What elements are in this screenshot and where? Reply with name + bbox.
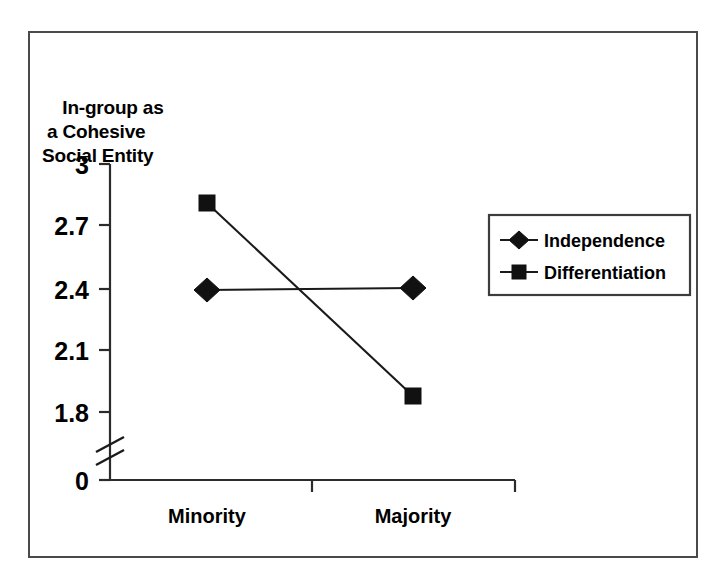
- legend-label-independence: Independence: [544, 231, 665, 251]
- x-category-label-majority: Majority: [375, 505, 453, 527]
- figure-frame: In-group as a Cohesive Social Entity 3 2…: [28, 31, 698, 558]
- series-line-differentiation: [207, 203, 413, 396]
- y-tick-label-3: 3: [75, 151, 89, 179]
- y-tick-label-2-7: 2.7: [54, 212, 89, 240]
- data-point-differentiation-minority[interactable]: [199, 195, 215, 211]
- data-point-differentiation-majority[interactable]: [405, 388, 421, 404]
- legend: Independence Differentiation: [489, 215, 690, 295]
- line-chart-plot: 3 2.7 2.4 2.1 1.8 0 Minority Majority In…: [30, 33, 700, 560]
- y-tick-label-1-8: 1.8: [54, 399, 89, 427]
- data-point-independence-majority[interactable]: [400, 276, 426, 300]
- y-tick-label-0: 0: [75, 467, 89, 495]
- x-category-label-minority: Minority: [168, 505, 247, 527]
- y-tick-label-2-4: 2.4: [54, 276, 89, 304]
- data-point-independence-minority[interactable]: [194, 278, 220, 302]
- legend-label-differentiation: Differentiation: [544, 263, 666, 283]
- y-tick-label-2-1: 2.1: [54, 337, 89, 365]
- square-marker-icon: [512, 265, 526, 279]
- legend-border: [489, 215, 690, 295]
- series-line-independence: [207, 288, 413, 290]
